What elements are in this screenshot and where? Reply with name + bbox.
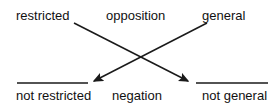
label-restricted: restricted <box>16 9 69 23</box>
edge-general-to-not-restricted <box>94 23 207 81</box>
diagram-canvas: restricted opposition general not restri… <box>0 0 277 112</box>
label-negation: negation <box>112 89 162 103</box>
label-general: general <box>202 9 245 23</box>
label-opposition: opposition <box>106 9 165 23</box>
label-not-general: not general <box>202 89 267 103</box>
edge-restricted-to-not-general <box>74 23 188 81</box>
label-not-restricted: not restricted <box>16 89 91 103</box>
